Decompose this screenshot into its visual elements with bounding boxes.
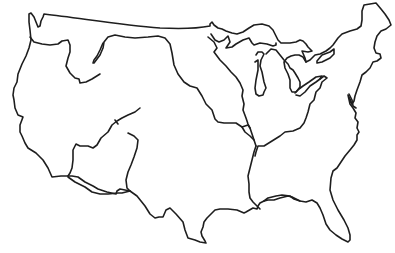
rio-grande-line — [126, 133, 138, 191]
lake-michigan — [255, 52, 266, 96]
lower-mississippi-line — [248, 146, 260, 209]
national-border — [13, 3, 391, 243]
lake-superior — [211, 34, 276, 48]
continental-divide-line — [94, 35, 250, 128]
us-outline-map: Outline map of the contiguous United Sta… — [0, 0, 395, 253]
columbia-snake-line — [30, 37, 100, 83]
upper-mississippi-line — [208, 37, 256, 146]
southwest-border-line — [68, 177, 130, 194]
colorado-river-line — [68, 108, 140, 176]
lake-huron — [266, 49, 306, 92]
